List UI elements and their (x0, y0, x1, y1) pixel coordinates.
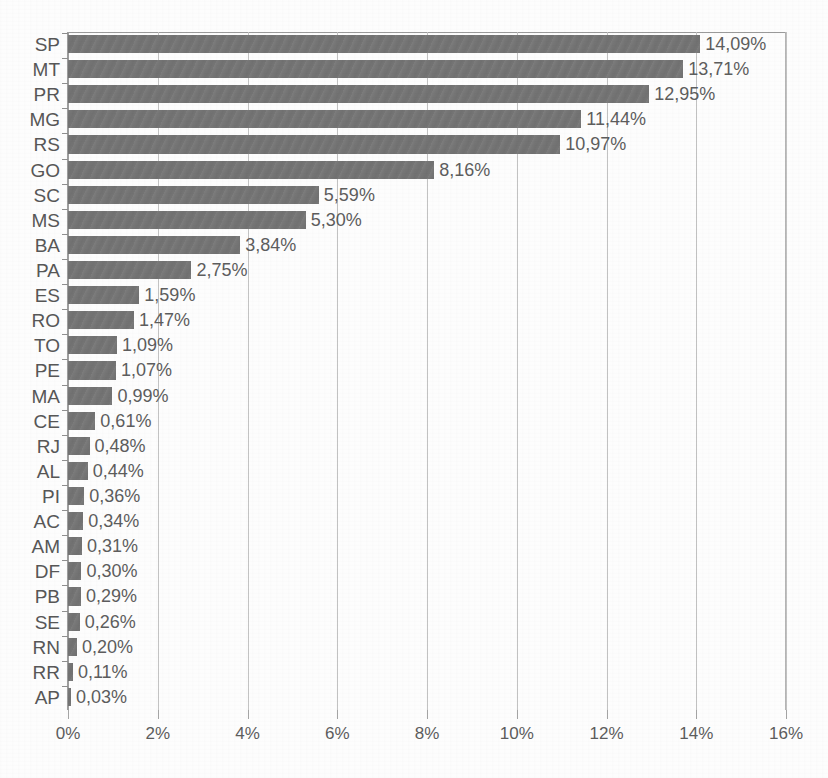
x-axis-tick (337, 710, 338, 719)
bar (68, 537, 82, 555)
value-label: 0,31% (87, 534, 138, 559)
bar (68, 35, 700, 53)
y-axis-tick (62, 460, 68, 461)
bar (68, 663, 73, 681)
bar (68, 236, 240, 254)
value-label: 10,97% (565, 132, 626, 157)
category-label: MA (32, 384, 61, 409)
y-axis-tick (62, 585, 68, 586)
gridline-10 (517, 32, 518, 710)
category-label: RJ (37, 434, 60, 459)
category-label: RR (33, 660, 60, 685)
y-axis-tick (62, 234, 68, 235)
bar (68, 587, 81, 605)
x-axis-label: 2% (145, 724, 170, 744)
category-label: MG (29, 107, 60, 132)
y-axis-tick (62, 686, 68, 687)
bar (68, 462, 88, 480)
gridline-6 (337, 32, 338, 710)
y-axis-tick (62, 385, 68, 386)
x-axis-tick (68, 710, 69, 719)
bar (68, 638, 77, 656)
category-label: SE (35, 610, 60, 635)
category-label: RO (32, 308, 61, 333)
value-label: 11,44% (586, 107, 646, 132)
category-label: RS (34, 132, 60, 157)
bar (68, 512, 83, 530)
y-axis-tick (62, 284, 68, 285)
y-axis-tick (62, 184, 68, 185)
value-label: 1,59% (144, 283, 195, 308)
y-axis-tick (62, 359, 68, 360)
x-axis-tick (786, 710, 787, 719)
bar (68, 286, 139, 304)
category-label: AL (37, 459, 60, 484)
category-label: SP (35, 32, 60, 57)
gridline-14 (696, 32, 697, 710)
y-axis-tick (62, 560, 68, 561)
y-axis-tick (62, 83, 68, 84)
y-axis-tick (62, 636, 68, 637)
bar (68, 487, 84, 505)
x-axis-label: 0% (56, 724, 81, 744)
category-label: PI (42, 484, 60, 509)
y-axis-tick (62, 334, 68, 335)
value-label: 13,71% (688, 57, 749, 82)
category-label: AP (35, 685, 60, 710)
bar (68, 311, 134, 329)
category-label: AC (34, 509, 60, 534)
bar (68, 110, 581, 128)
value-label: 0,48% (95, 434, 146, 459)
value-label: 1,07% (121, 358, 172, 383)
bar (68, 186, 319, 204)
value-label: 0,03% (76, 685, 127, 710)
bar (68, 387, 112, 405)
y-axis-tick (62, 33, 68, 34)
x-axis-label: 12% (589, 724, 623, 744)
value-label: 0,99% (117, 384, 168, 409)
gridline-4 (248, 32, 249, 710)
value-label: 1,09% (122, 333, 173, 358)
x-axis-label: 8% (415, 724, 440, 744)
y-axis-tick (62, 611, 68, 612)
value-label: 8,16% (439, 158, 490, 183)
value-label: 0,36% (89, 484, 140, 509)
x-axis-label: 14% (679, 724, 713, 744)
plot-area: SP14,09%MT13,71%PR12,95%MG11,44%RS10,97%… (68, 32, 786, 710)
value-label: 0,34% (88, 509, 139, 534)
bar (68, 361, 116, 379)
y-axis-tick (62, 535, 68, 536)
y-axis-tick (62, 108, 68, 109)
value-label: 0,11% (78, 660, 128, 685)
bar (68, 613, 80, 631)
bar (68, 211, 306, 229)
bar (68, 60, 683, 78)
value-label: 0,44% (93, 459, 144, 484)
category-label: PR (34, 82, 60, 107)
bar (68, 135, 560, 153)
x-axis-label: 4% (235, 724, 260, 744)
x-axis-tick (248, 710, 249, 719)
value-label: 14,09% (705, 32, 766, 57)
value-label: 5,59% (324, 183, 375, 208)
x-axis-label: 16% (769, 724, 803, 744)
bar (68, 161, 434, 179)
value-label: 0,61% (100, 409, 151, 434)
category-label: DF (35, 559, 60, 584)
y-axis-tick (62, 410, 68, 411)
x-axis-tick (517, 710, 518, 719)
category-label: CE (34, 409, 60, 434)
x-axis-tick (427, 710, 428, 719)
value-label: 0,26% (85, 610, 136, 635)
y-axis-tick (62, 159, 68, 160)
category-label: RN (33, 635, 60, 660)
category-label: GO (30, 158, 60, 183)
gridline-16 (786, 32, 787, 710)
y-axis-tick (62, 309, 68, 310)
value-label: 1,47% (139, 308, 190, 333)
value-label: 12,95% (654, 82, 715, 107)
bar (68, 437, 90, 455)
y-axis-tick (62, 435, 68, 436)
value-label: 0,20% (82, 635, 133, 660)
y-axis-tick (62, 58, 68, 59)
